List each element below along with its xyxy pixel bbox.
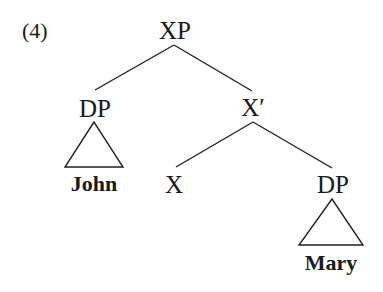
terminal-mary: Mary	[305, 252, 358, 274]
triangle-mary	[299, 199, 363, 245]
node-x-head: X	[165, 172, 183, 197]
tree-branches	[0, 0, 383, 292]
node-xbar: X′	[241, 95, 265, 120]
branch-xbar-dp	[253, 122, 332, 168]
node-dp-complement: DP	[317, 172, 349, 197]
example-number: (4)	[22, 20, 48, 42]
node-dp-spec: DP	[79, 96, 111, 121]
branch-xp-dp	[95, 45, 174, 90]
branch-xp-xbar	[174, 45, 252, 91]
terminal-john: John	[71, 173, 117, 195]
branch-xbar-x	[176, 122, 253, 167]
syntax-tree-diagram: (4) XP DP X′ John X DP Mary	[0, 0, 383, 292]
triangle-john	[65, 122, 123, 167]
node-xp: XP	[159, 18, 191, 43]
